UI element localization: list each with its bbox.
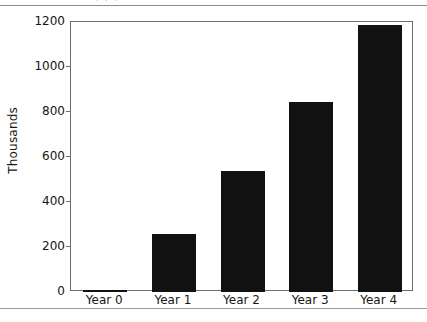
bar-chart-figure: · · · Thousands 020040060080010001200 Ye… [0, 0, 427, 322]
bar [289, 102, 333, 292]
x-tick-label: Year 2 [207, 294, 276, 307]
y-axis-title: Thousands [6, 107, 24, 174]
page-rule-top [0, 5, 427, 6]
y-tick-label: 400 [21, 195, 65, 207]
page-rule-bottom [0, 308, 427, 309]
clipped-caption-text: · · · [0, 0, 427, 4]
x-tick-label: Year 4 [344, 294, 413, 307]
bar [221, 171, 265, 292]
y-tick-label: 600 [21, 150, 65, 162]
plot-area [70, 21, 413, 291]
x-tick-label: Year 3 [276, 294, 345, 307]
y-tick-label: 800 [21, 105, 65, 117]
bar [152, 234, 196, 292]
y-tick-label: 1000 [21, 60, 65, 72]
x-tick-label: Year 0 [70, 294, 139, 307]
bar [83, 290, 127, 292]
bar-series [71, 22, 414, 292]
y-tick-label: 200 [21, 240, 65, 252]
bar [358, 25, 402, 292]
y-tick-label: 0 [21, 285, 65, 297]
y-tick-label: 1200 [21, 15, 65, 27]
x-tick-label: Year 1 [139, 294, 208, 307]
